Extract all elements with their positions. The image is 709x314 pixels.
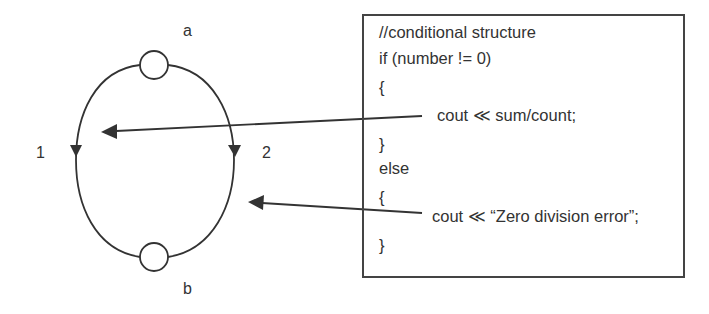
node-b-label: b	[183, 281, 192, 297]
code-line-cout-sum: cout ≪ sum/count;	[437, 107, 576, 124]
code-line-close-brace-1: }	[379, 136, 385, 153]
code-line-cout-error: cout ≪ “Zero division error”;	[432, 208, 639, 225]
edge-2-label: 2	[262, 145, 271, 161]
edge-2-path	[168, 65, 234, 257]
mapping-arrow-2-head-icon	[248, 195, 264, 210]
edge-1-label: 1	[36, 145, 45, 161]
code-line-else: else	[379, 160, 409, 177]
edge-1-arrow-icon	[70, 145, 82, 157]
code-line-comment: //conditional structure	[379, 24, 536, 41]
code-line-open-brace-2: {	[379, 189, 385, 206]
node-b	[140, 243, 168, 271]
code-line-open-brace-1: {	[379, 79, 385, 96]
edge-2-arrow-icon	[228, 145, 241, 157]
edge-1-path	[76, 65, 140, 257]
mapping-arrow-1-head-icon	[101, 124, 117, 139]
code-line-close-brace-2: }	[379, 237, 385, 254]
code-line-if: if (number != 0)	[379, 50, 491, 67]
node-a-label: a	[183, 23, 192, 39]
node-a	[140, 51, 168, 79]
